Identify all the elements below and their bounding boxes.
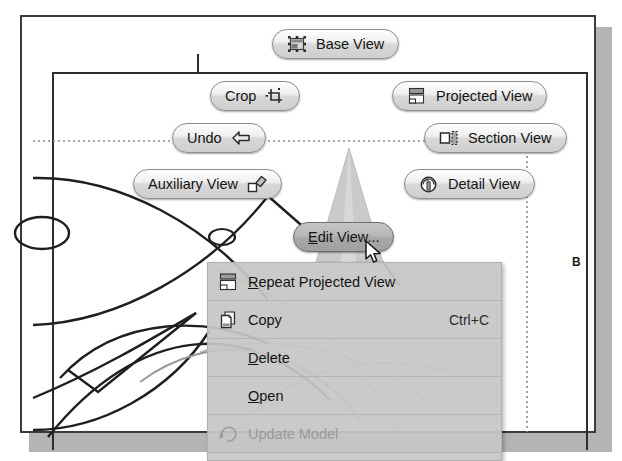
marking-menu-undo-label: Undo <box>187 131 222 146</box>
marking-menu-projected-view[interactable]: Projected View <box>392 81 547 111</box>
svg-text:A: A <box>425 177 429 183</box>
marking-menu-edit-view[interactable]: Edit View... <box>293 222 394 252</box>
context-menu-item-delete-label: Delete <box>248 350 473 366</box>
marking-menu-section-view[interactable]: Section View <box>424 123 567 153</box>
undo-icon <box>231 129 251 147</box>
context-menu-item-repeat-projected-view-label: Repeat Projected View <box>248 274 473 290</box>
marking-menu-detail-view-label: Detail View <box>448 177 520 192</box>
context-menu-item-repeat-projected-view[interactable]: Repeat Projected View <box>208 263 501 301</box>
crop-icon <box>265 87 285 105</box>
detail-view-icon: A <box>419 175 439 193</box>
base-view-icon <box>287 35 307 53</box>
context-menu-item-update-model-label: Update Model <box>248 426 473 442</box>
projected-view-icon <box>218 272 240 292</box>
sheet-zone-label: B <box>572 255 581 269</box>
marking-menu-crop-label: Crop <box>225 89 256 104</box>
context-menu-item-copy-label: Copy <box>248 312 433 328</box>
context-menu-item-update-model: Update Model <box>208 415 501 453</box>
marking-menu-edit-view-label: Edit View... <box>308 230 379 245</box>
update-model-icon <box>218 424 240 444</box>
context-menu[interactable]: Repeat Projected View Copy Ctrl+C Delete <box>207 262 502 461</box>
marking-menu-projected-view-label: Projected View <box>436 89 532 104</box>
marking-menu-section-view-label: Section View <box>468 131 552 146</box>
context-menu-item-open[interactable]: Open <box>208 377 501 415</box>
auxiliary-view-icon <box>247 175 267 193</box>
marking-menu-base-view[interactable]: Base View <box>272 29 399 59</box>
marking-menu-detail-view[interactable]: A Detail View <box>404 169 535 199</box>
marking-menu-base-view-label: Base View <box>316 37 384 52</box>
context-menu-item-copy[interactable]: Copy Ctrl+C <box>208 301 501 339</box>
projected-view-icon <box>407 87 427 105</box>
marking-menu-auxiliary-view-label: Auxiliary View <box>148 177 238 192</box>
marking-menu-undo[interactable]: Undo <box>172 123 266 153</box>
context-menu-item-copy-accel: Ctrl+C <box>449 312 489 328</box>
sheet-zone-tick <box>197 54 199 74</box>
context-menu-item-delete[interactable]: Delete <box>208 339 501 377</box>
drawing-application-canvas: B <box>0 0 622 461</box>
section-view-icon <box>439 129 459 147</box>
marking-menu-crop[interactable]: Crop <box>210 81 300 111</box>
marking-menu-auxiliary-view[interactable]: Auxiliary View <box>133 169 282 199</box>
copy-icon <box>218 310 240 330</box>
context-menu-item-open-label: Open <box>248 388 473 404</box>
